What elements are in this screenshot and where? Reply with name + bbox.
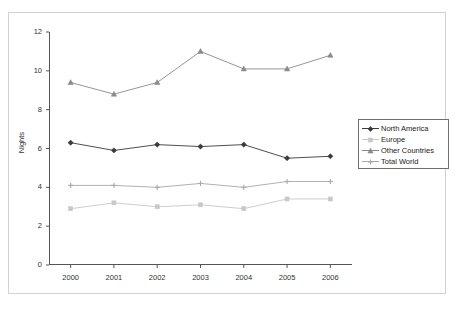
data-point: [285, 197, 289, 201]
data-point: [328, 53, 333, 58]
data-point: [241, 142, 246, 147]
data-point: [155, 205, 159, 209]
legend-marker-icon: [362, 135, 379, 145]
legend-item-total-world[interactable]: Total World: [362, 156, 448, 167]
data-point: [284, 179, 289, 184]
data-point: [328, 197, 332, 201]
data-point: [198, 144, 203, 149]
data-point: [199, 203, 203, 207]
data-point: [328, 154, 333, 159]
legend-item-north-america[interactable]: North America: [362, 123, 448, 134]
data-point: [369, 138, 373, 142]
data-point: [284, 156, 289, 161]
data-point: [368, 126, 373, 131]
legend-item-label: Total World: [379, 157, 418, 166]
data-point: [68, 80, 73, 85]
series-line: [71, 51, 331, 94]
legend-item-label: Other Countries: [379, 146, 434, 155]
chart-figure: Nights 024681012 20002001200220032004200…: [0, 0, 456, 309]
legend-item-label: North America: [379, 124, 429, 133]
legend-marker-icon: [362, 146, 379, 156]
data-point: [198, 49, 203, 54]
data-point: [155, 80, 160, 85]
data-point: [155, 185, 160, 190]
data-point: [328, 179, 333, 184]
legend-item-europe[interactable]: Europe: [362, 134, 448, 145]
data-point: [112, 201, 116, 205]
legend-item-other-countries[interactable]: Other Countries: [362, 145, 448, 156]
data-point: [368, 148, 373, 153]
data-point: [198, 181, 203, 186]
data-point: [111, 183, 116, 188]
data-point: [241, 185, 246, 190]
data-point: [68, 140, 73, 145]
data-point: [69, 207, 73, 211]
legend-marker-icon: [362, 157, 379, 167]
data-point: [242, 207, 246, 211]
data-point: [111, 148, 116, 153]
legend-marker-icon: [362, 124, 379, 134]
data-point: [155, 142, 160, 147]
data-point: [68, 183, 73, 188]
data-point: [368, 159, 373, 164]
chart-legend: North AmericaEuropeOther CountriesTotal …: [358, 119, 449, 169]
legend-item-label: Europe: [379, 135, 405, 144]
